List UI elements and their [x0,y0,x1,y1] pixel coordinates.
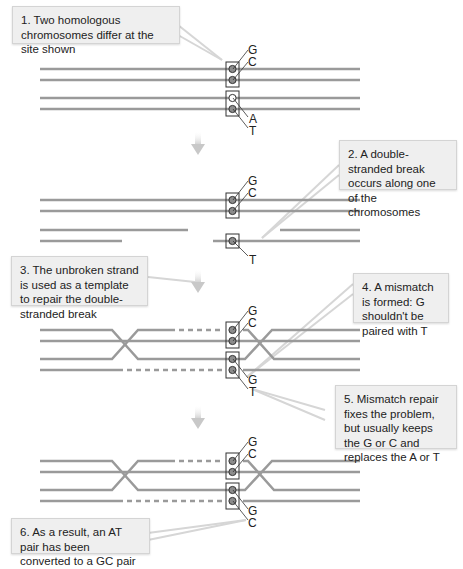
strands [40,461,360,501]
callout-6: 6. As a result, an AT pair has been conv… [11,518,150,554]
down-arrow-icon [191,132,205,155]
panel-4: G C G C [40,435,360,530]
label-c: C [248,516,257,530]
label-c: C [248,186,257,200]
callout-3: 3. The unbroken strand is used as a temp… [11,256,148,306]
label-c: C [248,447,257,461]
callout-5: 5. Mismatch repair fixes the problem, bu… [335,385,457,449]
panel-1: G C A T [40,43,360,138]
label-t: T [249,124,257,138]
strands [40,69,360,109]
callout-6-text: 6. As a result, an AT pair has been conv… [20,526,136,567]
callout-5-text: 5. Mismatch repair fixes the problem, bu… [344,393,440,463]
strands [40,200,360,241]
callout-1: 1. Two homologous chromosomes differ at … [12,6,180,44]
label-t: T [249,253,257,267]
callout-4-text: 4. A mismatch is formed: G shouldn't be … [362,281,434,337]
down-arrow-icons [191,132,205,429]
callout-2: 2. A double-stranded break occurs along … [339,140,457,190]
strands [40,330,360,370]
panel-2: G C T [40,174,360,267]
callout-4: 4. A mismatch is formed: G shouldn't be … [353,273,449,323]
label-c: C [248,55,257,69]
down-arrow-icon [191,406,205,429]
label-t: T [249,385,257,399]
label-c: C [248,316,257,330]
